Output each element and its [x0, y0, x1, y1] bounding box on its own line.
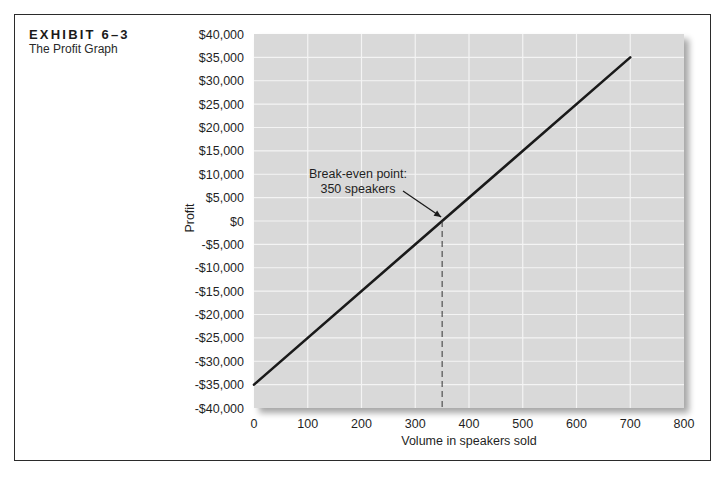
- y-tick-label: $35,000: [199, 51, 244, 65]
- x-tick-label: 0: [251, 417, 258, 431]
- y-tick-label: -$5,000: [202, 238, 244, 252]
- y-tick-label: $30,000: [199, 74, 244, 88]
- y-tick-label: -$15,000: [195, 285, 244, 299]
- x-axis-label: Volume in speakers sold: [401, 434, 537, 448]
- y-tick-label: $10,000: [199, 168, 244, 182]
- y-tick-label: -$10,000: [195, 261, 244, 275]
- y-tick-label: -$35,000: [195, 378, 244, 392]
- y-axis-ticks: $40,000$35,000$30,000$25,000$20,000$15,0…: [195, 28, 244, 416]
- x-tick-label: 100: [297, 417, 318, 431]
- x-axis-ticks: 0100200300400500600700800: [251, 417, 695, 431]
- x-tick-label: 400: [459, 417, 480, 431]
- y-tick-label: $5,000: [206, 191, 244, 205]
- y-axis-label: Profit: [183, 203, 197, 233]
- y-tick-label: -$40,000: [195, 402, 244, 416]
- x-tick-label: 300: [405, 417, 426, 431]
- y-tick-label: $40,000: [199, 28, 244, 42]
- y-tick-label: $0: [230, 215, 244, 229]
- profit-graph: $40,000$35,000$30,000$25,000$20,000$15,0…: [0, 0, 722, 482]
- break-even-label-line1: Break-even point:: [309, 167, 407, 181]
- y-tick-label: -$25,000: [195, 331, 244, 345]
- y-tick-label: -$30,000: [195, 355, 244, 369]
- x-tick-label: 800: [674, 417, 695, 431]
- x-tick-label: 200: [351, 417, 372, 431]
- x-tick-label: 700: [620, 417, 641, 431]
- y-tick-label: $25,000: [199, 98, 244, 112]
- x-tick-label: 500: [512, 417, 533, 431]
- y-tick-label: $15,000: [199, 144, 244, 158]
- break-even-label-line2: 350 speakers: [320, 182, 395, 196]
- y-tick-label: -$20,000: [195, 308, 244, 322]
- x-tick-label: 600: [566, 417, 587, 431]
- y-tick-label: $20,000: [199, 121, 244, 135]
